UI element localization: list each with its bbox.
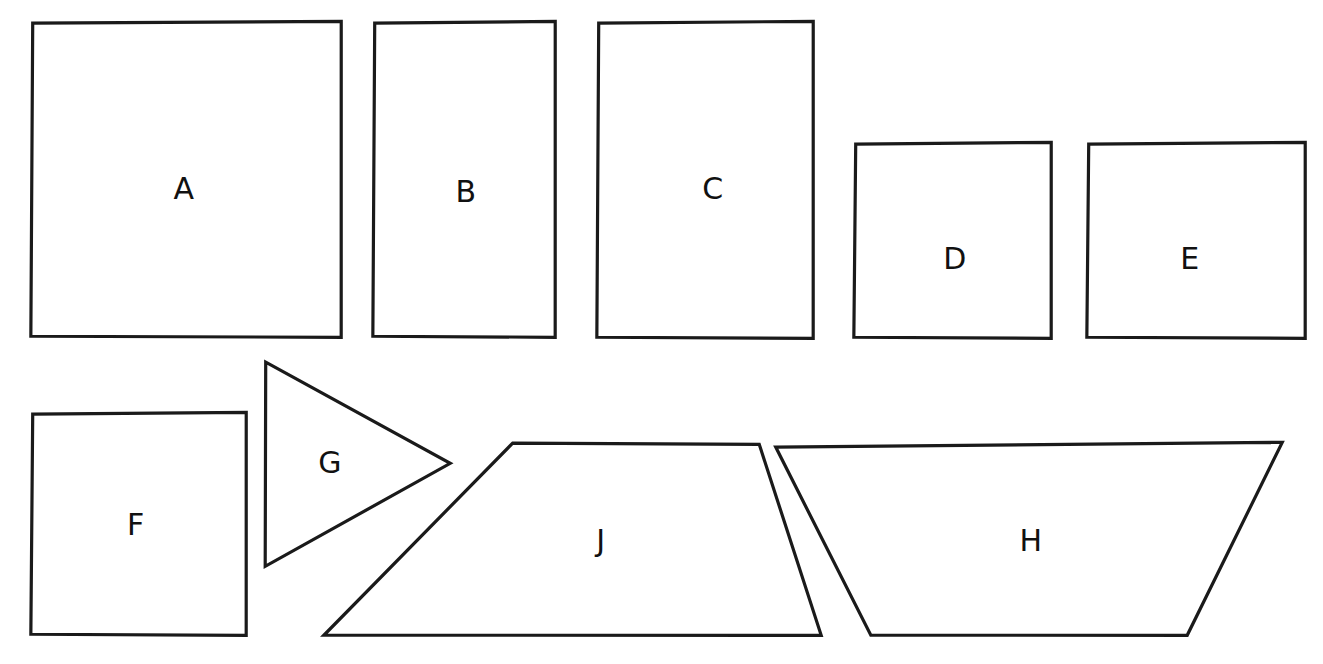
shapes-drawing: ABCDEFGJH xyxy=(0,0,1323,664)
shape-h[interactable]: H xyxy=(776,442,1283,635)
shape-a[interactable]: A xyxy=(31,21,341,337)
shapes-group: ABCDEFGJH xyxy=(31,21,1305,635)
shape-g-label: G xyxy=(318,445,342,480)
shape-d-label: D xyxy=(943,241,967,276)
shape-a-label: A xyxy=(173,171,194,206)
shape-c-label: C xyxy=(702,171,723,206)
shape-c[interactable]: C xyxy=(597,21,813,338)
shape-d[interactable]: D xyxy=(854,142,1051,338)
shape-f-label: F xyxy=(127,507,145,542)
shape-f[interactable]: F xyxy=(31,412,246,635)
shape-j-label: J xyxy=(594,523,605,558)
diagram-canvas: ABCDEFGJH xyxy=(0,0,1323,664)
shape-h-label: H xyxy=(1019,523,1042,558)
shape-b-label: B xyxy=(455,174,476,209)
shape-e-label: E xyxy=(1180,241,1199,276)
shape-e[interactable]: E xyxy=(1087,142,1305,338)
shape-b[interactable]: B xyxy=(373,21,555,337)
